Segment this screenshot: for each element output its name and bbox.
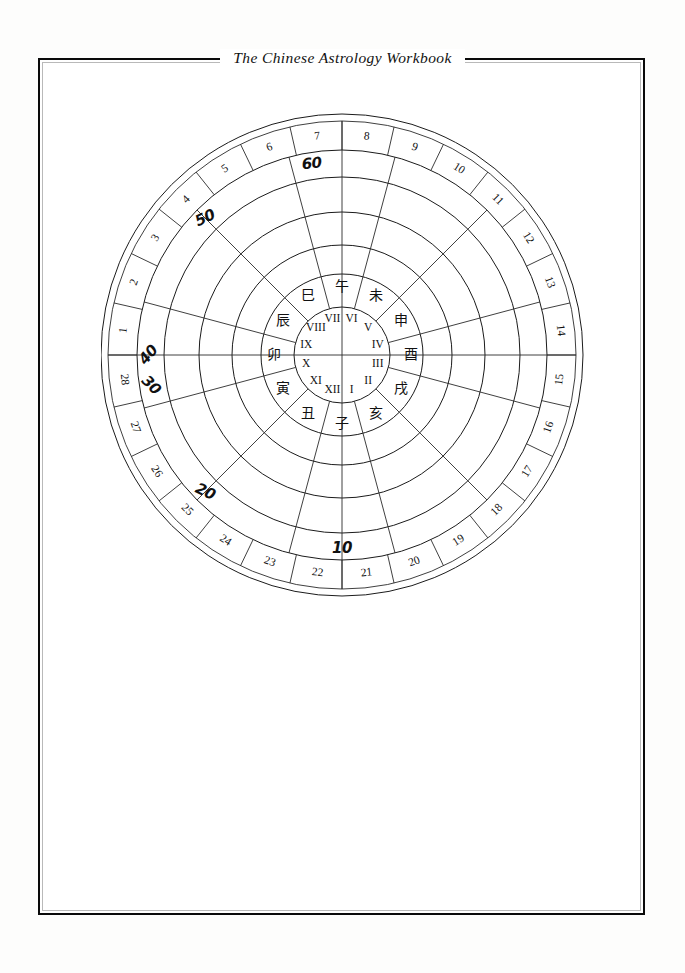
mansion-divider [527, 253, 553, 266]
wheel-svg: 1234567891011121314151617181920212223242… [101, 113, 585, 597]
house-spoke [399, 412, 468, 481]
mansion-divider [502, 483, 525, 501]
house-spoke [420, 309, 514, 334]
earthly-branch-label: 申 [394, 312, 408, 328]
house-spoke [170, 376, 264, 401]
mansion-number: 16 [540, 419, 555, 434]
house-roman-numeral: V [364, 321, 373, 333]
earthly-branch-label: 丑 [301, 405, 315, 421]
mansion-number: 11 [490, 191, 506, 207]
house-roman-numeral: IV [372, 338, 385, 350]
decade-marker: 30 [138, 372, 165, 399]
mansion-number: 9 [410, 140, 420, 153]
house-spoke-outer [514, 401, 540, 408]
earthly-branch-label: 子 [335, 415, 349, 431]
house-roman-numeral: XII [324, 383, 340, 395]
branch-divider [321, 277, 330, 309]
house-spoke [296, 183, 321, 277]
mansion-number: 8 [363, 129, 370, 142]
mansion-divider [114, 303, 142, 309]
house-roman-numeral: X [302, 357, 311, 369]
house-roman-numeral: III [372, 357, 384, 369]
house-spoke-outer [289, 157, 296, 183]
mansion-divider [240, 144, 253, 170]
house-roman-numeral: VI [346, 312, 358, 324]
house-spoke [363, 433, 388, 527]
mansion-divider [527, 444, 553, 457]
mansion-number: 20 [407, 553, 422, 568]
house-spoke-outer [144, 401, 170, 408]
mansion-number: 5 [219, 161, 230, 174]
mansion-divider [240, 540, 253, 566]
mansion-divider [290, 127, 296, 155]
mansion-number: 28 [119, 373, 132, 386]
mansion-divider [431, 144, 444, 170]
earthly-branch-label: 巳 [301, 287, 315, 303]
mansion-number: 19 [450, 531, 466, 547]
mansion-number: 26 [149, 463, 165, 479]
decade-marker: 60 [301, 154, 322, 174]
astrology-wheel-diagram: 1234567891011121314151617181920212223242… [101, 113, 585, 597]
mansion-divider [470, 172, 488, 195]
mansion-number: 7 [314, 129, 321, 142]
branch-divider [388, 367, 420, 376]
earthly-branch-label: 辰 [276, 312, 290, 328]
branch-divider [354, 277, 363, 309]
mansion-number: 22 [311, 565, 324, 578]
branch-divider [354, 401, 363, 433]
house-spoke [399, 229, 468, 298]
mansion-number: 25 [179, 501, 196, 518]
mansion-divider [196, 172, 214, 195]
house-spoke-outer [388, 157, 395, 183]
mansion-number: 18 [488, 501, 505, 518]
mansion-divider [114, 401, 142, 407]
mansion-number: 3 [148, 232, 161, 243]
mansion-number: 1 [116, 326, 129, 333]
house-spoke-outer [388, 527, 395, 553]
house-spoke [170, 309, 264, 334]
running-head: The Chinese Astrology Workbook [0, 49, 685, 73]
mansion-divider [470, 515, 488, 538]
house-spoke [363, 183, 388, 277]
mansion-divider [542, 401, 570, 407]
house-roman-numeral: II [364, 374, 372, 386]
mansion-number: 27 [129, 420, 144, 435]
house-spoke [296, 433, 321, 527]
page-canvas: The Chinese Astrology Workbook 123456789… [0, 0, 685, 973]
mansion-divider [431, 540, 444, 566]
mansion-divider [159, 209, 182, 227]
mansion-number: 12 [521, 229, 537, 245]
mansion-divider [388, 127, 394, 155]
mansion-number: 24 [218, 532, 234, 548]
mansion-divider [131, 444, 157, 457]
mansion-number: 10 [451, 160, 467, 176]
mansion-divider [388, 555, 394, 583]
mansion-number: 15 [552, 373, 565, 386]
mansion-number: 21 [360, 565, 373, 578]
branch-divider [388, 334, 420, 343]
house-roman-numeral: VII [324, 312, 340, 324]
earthly-branch-label: 戌 [394, 380, 408, 396]
house-spoke [216, 229, 285, 298]
mansion-number: 14 [555, 324, 568, 337]
decade-marker: 10 [332, 539, 352, 557]
branch-divider [321, 401, 330, 433]
house-spoke [216, 412, 285, 481]
house-spoke-outer [468, 481, 487, 500]
mansion-divider [196, 515, 214, 538]
earthly-branch-label: 酉 [404, 346, 418, 362]
earthly-branch-label: 未 [369, 287, 383, 303]
mansion-divider [290, 555, 296, 583]
mansion-divider [159, 483, 182, 501]
mansion-divider [131, 253, 157, 266]
earthly-branch-label: 午 [335, 278, 349, 294]
mansion-number: 23 [263, 553, 278, 568]
page-title: The Chinese Astrology Workbook [220, 49, 465, 67]
house-spoke [420, 376, 514, 401]
house-spoke-outer [514, 302, 540, 309]
mansion-number: 13 [543, 275, 558, 290]
branch-divider [264, 334, 296, 343]
house-spoke-outer [468, 210, 487, 229]
house-spoke-outer [289, 527, 296, 553]
house-roman-numeral: VIII [306, 321, 326, 333]
